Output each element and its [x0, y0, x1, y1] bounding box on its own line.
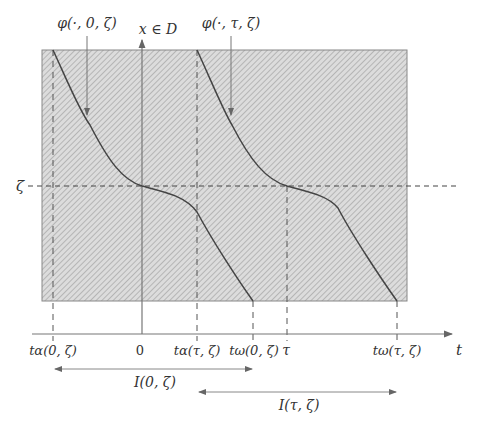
tick-t-omega-tau: tω(τ, ζ)	[373, 343, 421, 358]
diagram-canvas: φ(·, 0, ζ) φ(·, τ, ζ) x ∈ D ζ t tα(0, ζ)…	[0, 0, 478, 426]
interval-I0-label: I(0, ζ)	[133, 374, 176, 390]
tick-tau: τ	[282, 342, 290, 358]
domain-region	[42, 50, 407, 301]
time-axis-label: t	[456, 341, 463, 359]
zeta-label: ζ	[16, 177, 25, 195]
interval-Itau-label: I(τ, ζ)	[278, 397, 320, 413]
tick-t-omega-0: tω(0, ζ)	[229, 343, 279, 358]
curve-label-phi-0: φ(·, 0, ζ)	[57, 15, 116, 31]
domain-label: x ∈ D	[139, 21, 177, 37]
tick-zero: 0	[136, 343, 144, 358]
curve-label-phi-tau: φ(·, τ, ζ)	[202, 15, 260, 31]
tick-t-alpha-0: tα(0, ζ)	[29, 343, 77, 358]
tick-t-alpha-tau: tα(τ, ζ)	[174, 343, 221, 358]
